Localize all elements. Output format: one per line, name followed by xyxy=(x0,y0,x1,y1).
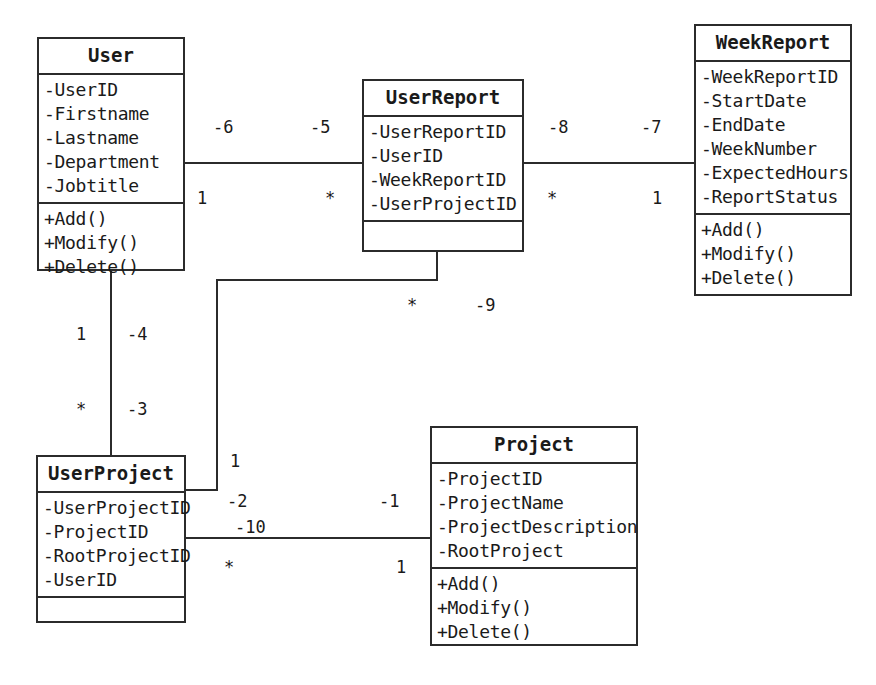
association-line-user-userproject xyxy=(110,271,112,460)
association-multiplicity-star-userreport-3: * xyxy=(407,296,417,314)
association-line-userreport-userproject-seg4 xyxy=(186,489,218,491)
attribute: -UserID xyxy=(369,144,520,168)
association-multiplicity-one-weekreport: 1 xyxy=(652,189,662,207)
operation: +Delete() xyxy=(44,255,181,279)
attribute: -ProjectID xyxy=(437,467,634,491)
association-line-userreport-weekreport xyxy=(524,162,694,164)
class-attributes-userproject: -UserProjectID -ProjectID -RootProjectID… xyxy=(38,493,184,596)
attribute: -EndDate xyxy=(701,113,848,137)
attribute: -Jobtitle xyxy=(44,174,181,198)
operation: +Delete() xyxy=(437,620,634,644)
attribute: -StartDate xyxy=(701,89,848,113)
class-title-userproject: UserProject xyxy=(38,457,184,493)
association-role-label-minus1: -1 xyxy=(379,492,399,510)
class-title-weekreport: WeekReport xyxy=(696,26,850,62)
class-title-userreport: UserReport xyxy=(364,81,522,117)
class-attributes-user: -UserID -Firstname -Lastname -Department… xyxy=(39,75,183,202)
association-multiplicity-one-project: 1 xyxy=(396,558,406,576)
class-attributes-project: -ProjectID -ProjectName -ProjectDescript… xyxy=(432,464,636,567)
association-role-label-minus3: -3 xyxy=(127,400,147,418)
association-multiplicity-star-userreport-2: * xyxy=(547,189,557,207)
class-box-userproject[interactable]: UserProject -UserProjectID -ProjectID -R… xyxy=(36,455,186,623)
association-role-label-minus6: -6 xyxy=(213,118,233,136)
attribute: -UserReportID xyxy=(369,120,520,144)
association-line-user-userreport xyxy=(185,162,362,164)
class-operations-project: +Add() +Modify() +Delete() xyxy=(432,567,636,648)
attribute: -ProjectName xyxy=(437,491,634,515)
association-multiplicity-star-userproject: * xyxy=(76,400,86,418)
association-role-label-minus2: -2 xyxy=(227,492,247,510)
class-operations-user: +Add() +Modify() +Delete() xyxy=(39,202,183,283)
association-role-label-minus10: -10 xyxy=(235,518,266,536)
operation: +Modify() xyxy=(44,231,181,255)
attribute: -UserProjectID xyxy=(43,496,182,520)
attribute: -WeekNumber xyxy=(701,137,848,161)
class-box-userreport[interactable]: UserReport -UserReportID -UserID -WeekRe… xyxy=(362,79,524,252)
attribute: -ProjectID xyxy=(43,520,182,544)
class-title-project: Project xyxy=(432,428,636,464)
attribute: -Department xyxy=(44,150,181,174)
operation: +Add() xyxy=(44,207,181,231)
association-multiplicity-one-user: 1 xyxy=(197,189,207,207)
association-role-label-minus5: -5 xyxy=(310,118,330,136)
attribute: -UserID xyxy=(43,568,182,592)
attribute: -UserID xyxy=(44,78,181,102)
association-role-label-minus9: -9 xyxy=(475,296,495,314)
attribute: -Lastname xyxy=(44,126,181,150)
association-line-userreport-userproject-seg2 xyxy=(216,279,438,281)
association-multiplicity-one-user-2: 1 xyxy=(76,325,86,343)
class-operations-userreport xyxy=(364,220,522,248)
operation: +Delete() xyxy=(701,266,848,290)
class-operations-weekreport: +Add() +Modify() +Delete() xyxy=(696,213,850,294)
operation: +Add() xyxy=(437,572,634,596)
association-multiplicity-star-userreport: * xyxy=(325,189,335,207)
class-box-user[interactable]: User -UserID -Firstname -Lastname -Depar… xyxy=(37,37,185,271)
attribute: -WeekReportID xyxy=(369,168,520,192)
attribute: -ExpectedHours xyxy=(701,161,848,185)
class-box-weekreport[interactable]: WeekReport -WeekReportID -StartDate -End… xyxy=(694,24,852,296)
class-attributes-userreport: -UserReportID -UserID -WeekReportID -Use… xyxy=(364,117,522,220)
association-role-label-minus8: -8 xyxy=(548,118,568,136)
association-role-label-minus7: -7 xyxy=(641,118,661,136)
association-multiplicity-star-userproject-2: * xyxy=(224,558,234,576)
association-role-label-minus4: -4 xyxy=(127,325,147,343)
attribute: -ReportStatus xyxy=(701,185,848,209)
class-operations-userproject xyxy=(38,596,184,624)
operation: +Modify() xyxy=(701,242,848,266)
operation: +Add() xyxy=(701,218,848,242)
attribute: -RootProjectID xyxy=(43,544,182,568)
class-attributes-weekreport: -WeekReportID -StartDate -EndDate -WeekN… xyxy=(696,62,850,213)
attribute: -RootProject xyxy=(437,539,634,563)
class-title-user: User xyxy=(39,39,183,75)
attribute: -UserProjectID xyxy=(369,192,520,216)
attribute: -ProjectDescription xyxy=(437,515,634,539)
attribute: -Firstname xyxy=(44,102,181,126)
attribute: -WeekReportID xyxy=(701,65,848,89)
association-multiplicity-one-userproject: 1 xyxy=(230,452,240,470)
association-line-userproject-project xyxy=(186,537,430,539)
uml-class-diagram-canvas: User -UserID -Firstname -Lastname -Depar… xyxy=(0,0,876,685)
association-line-userreport-userproject-seg3 xyxy=(216,279,218,491)
operation: +Modify() xyxy=(437,596,634,620)
class-box-project[interactable]: Project -ProjectID -ProjectName -Project… xyxy=(430,426,638,646)
association-line-userreport-userproject-seg1 xyxy=(436,252,438,281)
